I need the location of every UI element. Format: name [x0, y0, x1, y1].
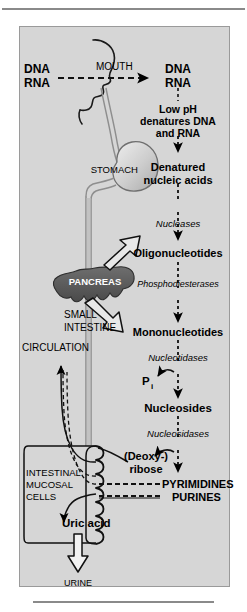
low-ph-label-3: and RNA: [156, 127, 201, 139]
denatured-label-2: nucleic acids: [143, 174, 212, 186]
stomach-rna-label: RNA: [165, 76, 191, 90]
mucosal-label-2: MUCOSAL: [26, 479, 73, 490]
nucleotidases-label: Nucleotidases: [148, 352, 208, 363]
phosphate-subscript-label: i: [151, 382, 153, 391]
small-intestine-label-2: INTESTINE: [64, 322, 117, 333]
pathway-diagram: PANCREAS: [0, 0, 247, 612]
phosphate-label: P: [142, 375, 150, 387]
dietary-rna-label: RNA: [24, 76, 50, 90]
stomach-dna-label: DNA: [165, 62, 191, 76]
denatured-label-1: Denatured: [151, 161, 205, 173]
oligonucleotides-label: Oligonucleotides: [133, 247, 222, 259]
deoxyribose-label-2: ribose: [129, 463, 162, 475]
nucleases-label: Nucleases: [156, 218, 201, 229]
mucosal-label-1: INTESTINAL: [26, 467, 81, 478]
small-intestine-label-1: SMALL: [64, 309, 97, 320]
phosphodiesterases-label: Phosphodiesterases: [137, 279, 219, 289]
nucleosides-label: Nucleosides: [144, 402, 212, 414]
nucleosidases-label: Nucleosidases: [147, 428, 209, 439]
pyrimidines-label: PYRIMIDINES: [162, 478, 234, 490]
pancreas-label: PANCREAS: [69, 276, 122, 287]
mouth-label: MOUTH: [96, 61, 133, 72]
pancreas-organ: PANCREAS: [54, 267, 135, 302]
urine-arrow: [68, 534, 88, 572]
dietary-dna-label: DNA: [24, 62, 50, 76]
purines-label: PURINES: [172, 491, 221, 503]
head-profile-icon: [79, 40, 115, 124]
circulation-label: CIRCULATION: [22, 342, 89, 353]
low-ph-label-2: denatures DNA: [140, 115, 216, 127]
low-ph-label-1: Low pH: [159, 103, 197, 115]
mucosal-label-3: CELLS: [26, 491, 56, 502]
deoxyribose-label-1: (Deoxy-): [124, 450, 168, 462]
mononucleotides-label: Mononucleotides: [133, 326, 223, 338]
uric-acid-label: Uric acid: [62, 517, 111, 529]
figure-root: PANCREAS: [0, 0, 247, 612]
stomach-label: STOMACH: [91, 164, 138, 175]
urine-label: URINE: [64, 578, 92, 588]
